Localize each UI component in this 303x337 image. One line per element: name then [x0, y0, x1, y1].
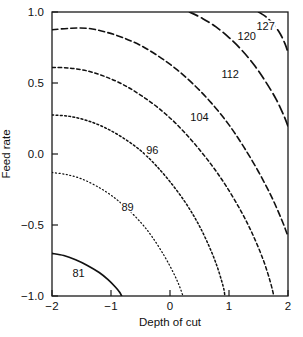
y-tick-label: −0.5 [0, 219, 44, 231]
y-axis-title: Feed rate [0, 129, 12, 178]
plot-border [52, 12, 288, 296]
x-tick-label: 1 [226, 300, 233, 312]
plot-frame [52, 12, 288, 296]
contour-line-104 [52, 67, 274, 296]
contour-label-127: 127 [255, 21, 275, 32]
x-tick-label: −2 [45, 300, 58, 312]
axis-ticks [52, 12, 288, 296]
contour-line-112 [52, 28, 288, 236]
contour-label-96: 96 [145, 144, 159, 155]
contour-label-104: 104 [189, 112, 209, 123]
contour-label-89: 89 [120, 201, 134, 212]
x-tick-label: 0 [167, 300, 174, 312]
contour-line-81 [52, 253, 122, 296]
contour-plot-figure: 1.00.50.0−0.5−1.0 −2−1012 81899610411212… [0, 0, 303, 337]
contour-line-127 [259, 12, 289, 52]
contour-label-112: 112 [220, 68, 240, 79]
contour-label-81: 81 [71, 268, 85, 279]
y-tick-label: −1.0 [0, 290, 44, 302]
x-axis-title: Depth of cut [139, 316, 201, 328]
y-tick-label: 1.0 [0, 6, 44, 18]
contour-lines [52, 12, 288, 296]
x-tick-label: 2 [285, 300, 292, 312]
y-tick-label: 0.5 [0, 77, 44, 89]
x-tick-label: −1 [104, 300, 117, 312]
contour-plot-canvas [0, 0, 303, 337]
contour-label-120: 120 [237, 31, 257, 42]
